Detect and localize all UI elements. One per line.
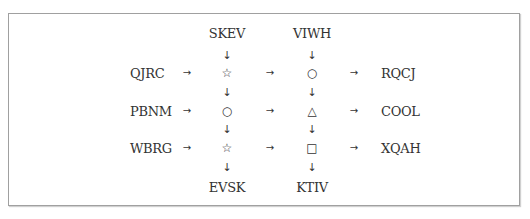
right-arrow-icon: → [183,106,191,116]
down-arrow-icon: ↓ [307,87,316,98]
diagram-frame [8,13,520,206]
right-arrow-icon: → [183,143,191,153]
bottom-label-col2: KTIV [296,181,328,194]
right-label-row2: COOL [381,105,420,118]
down-arrow-icon: ↓ [222,50,231,61]
circle-icon: ○ [222,105,232,117]
right-arrow-icon: → [350,106,358,116]
down-arrow-icon: ↓ [307,162,316,173]
down-arrow-icon: ↓ [222,162,231,173]
top-label-col2: VIWH [293,27,331,40]
right-arrow-icon: → [266,68,274,78]
right-arrow-icon: → [266,106,274,116]
down-arrow-icon: ↓ [307,50,316,61]
down-arrow-icon: ↓ [222,87,231,98]
star-icon: ☆ [222,67,233,79]
left-label-row1: QJRC [130,67,164,80]
right-arrow-icon: → [183,68,191,78]
down-arrow-icon: ↓ [222,124,231,135]
square-icon: □ [306,142,317,154]
right-arrow-icon: → [266,143,274,153]
bottom-label-col1: EVSK [209,181,245,194]
top-label-col1: SKEV [209,27,245,40]
down-arrow-icon: ↓ [307,124,316,135]
circle-icon: ○ [307,67,317,79]
right-label-row3: XQAH [381,142,420,155]
left-label-row2: PBNM [130,105,172,118]
right-arrow-icon: → [350,143,358,153]
right-arrow-icon: → [350,68,358,78]
triangle-icon: △ [307,105,316,117]
left-label-row3: WBRG [130,142,172,155]
right-label-row1: RQCJ [381,67,415,80]
star-icon: ☆ [222,142,233,154]
